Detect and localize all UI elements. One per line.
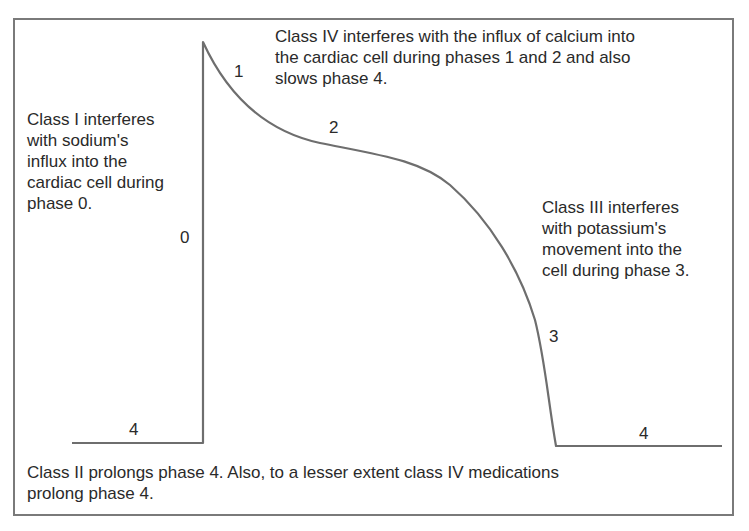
phase-1-label: 1 bbox=[234, 62, 243, 82]
class-iii-annotation: Class III interferes with potassium's mo… bbox=[542, 197, 689, 281]
phase-3-label: 3 bbox=[549, 327, 558, 347]
phase-2-label: 2 bbox=[329, 118, 338, 138]
class-ii-annotation: Class II prolongs phase 4. Also, to a le… bbox=[27, 462, 559, 504]
phase-4-right-label: 4 bbox=[639, 424, 648, 444]
phase-4-left-label: 4 bbox=[129, 420, 138, 440]
class-i-annotation: Class I interferes with sodium's influx … bbox=[27, 109, 164, 214]
class-iv-annotation: Class IV interferes with the influx of c… bbox=[275, 26, 635, 89]
phase-0-label: 0 bbox=[180, 228, 189, 248]
